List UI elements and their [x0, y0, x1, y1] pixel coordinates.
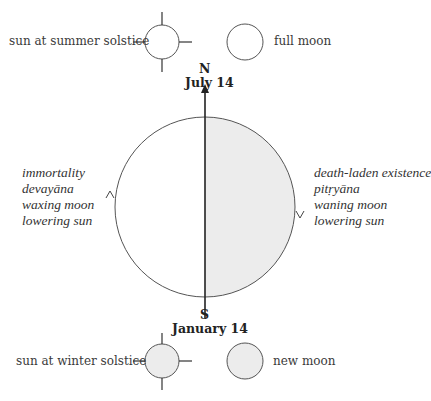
- right-half-text: death-laden existence pitṛyāna waning mo…: [314, 165, 431, 229]
- right-line: lowering sun: [314, 213, 431, 229]
- summer-solstice-label: sun at summer solstice: [9, 34, 149, 48]
- left-line: devayāna: [22, 181, 94, 197]
- right-line: pitṛyāna: [314, 181, 431, 197]
- south-date: January 14: [172, 321, 248, 336]
- arrow-down-icon: [296, 211, 304, 218]
- left-line: waxing moon: [22, 197, 94, 213]
- right-line: death-laden existence: [314, 165, 431, 181]
- north-letter: N: [199, 61, 210, 76]
- left-line: immortality: [22, 165, 94, 181]
- left-half-text: immortality devayāna waxing moon lowerin…: [22, 165, 94, 229]
- full-moon-icon: [227, 24, 263, 60]
- new-moon-label: new moon: [273, 354, 335, 368]
- arrow-up-icon: [106, 191, 114, 198]
- winter-solstice-label: sun at winter solstice: [16, 354, 146, 368]
- left-line: lowering sun: [22, 213, 94, 229]
- full-moon-label: full moon: [274, 34, 331, 48]
- south-letter: S: [200, 307, 209, 322]
- right-line: waning moon: [314, 197, 431, 213]
- new-moon-icon: [227, 343, 263, 379]
- north-date: July 14: [185, 75, 234, 90]
